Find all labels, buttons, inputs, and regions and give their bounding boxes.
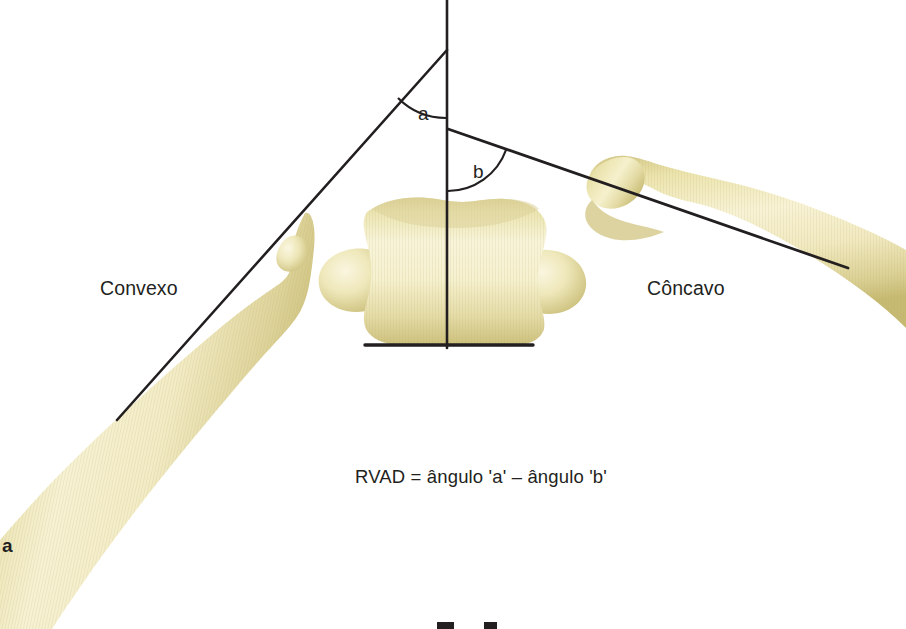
cropped-caption-fragment — [437, 622, 497, 629]
concave-rib-inferior-edge — [585, 200, 664, 240]
angle-a-label: a — [418, 104, 429, 123]
vertebra-body — [319, 197, 587, 346]
figure-panel-letter: a — [2, 536, 13, 555]
convex-side-label: Convexo — [100, 279, 178, 299]
angle-b-label: b — [473, 162, 484, 181]
figure-container: Convexo Côncavo a b RVAD = ângulo 'a' – … — [0, 0, 906, 629]
concave-side-label: Côncavo — [647, 279, 725, 299]
rvad-formula: RVAD = ângulo 'a' – ângulo 'b' — [355, 468, 607, 487]
caption-fragment-right — [484, 622, 497, 629]
convex-rib-bone — [0, 213, 315, 629]
convex-rib-texture — [0, 213, 315, 629]
anatomical-diagram-svg — [0, 0, 906, 629]
caption-fragment-left — [437, 622, 454, 629]
concave-rib-head — [587, 157, 645, 209]
concave-rib-bone — [585, 156, 906, 328]
